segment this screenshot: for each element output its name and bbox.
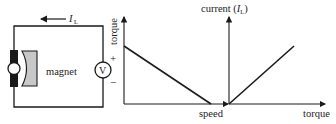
y-axis-label: torque — [108, 18, 119, 45]
motor-icon — [8, 50, 20, 87]
x-axis-label: torque — [303, 108, 330, 119]
x-axis-label: speed — [199, 108, 224, 119]
current-label: I — [68, 13, 73, 24]
magnet-label: magnet — [46, 66, 77, 77]
voltmeter-symbol: V — [99, 65, 107, 76]
voltmeter: V + − — [95, 52, 116, 88]
graph-torque-vs-speed: torque speed — [108, 17, 228, 119]
motor-diagram: I L magnet V + − torque speed curr — [0, 0, 336, 124]
current-torque-line — [229, 46, 294, 104]
y-axis-label: current (IL) — [201, 3, 248, 15]
current-subscript: L — [74, 18, 78, 25]
graph-current-vs-torque: current (IL) torque — [201, 3, 330, 119]
magnet-icon — [22, 51, 37, 86]
torque-speed-line — [124, 46, 211, 104]
current-arrow: I L — [41, 13, 78, 25]
circuit: I L magnet V + − — [8, 13, 116, 107]
minus-sign: − — [110, 76, 116, 88]
plus-sign: + — [110, 52, 116, 64]
